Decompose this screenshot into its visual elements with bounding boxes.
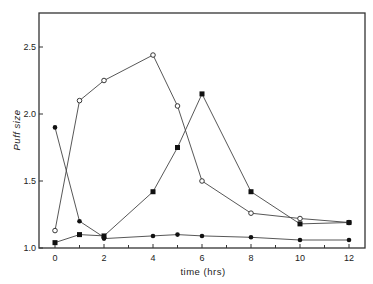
- x-tick-label: 10: [295, 253, 305, 263]
- filled-square-marker: [249, 189, 254, 194]
- series-lines: [55, 55, 349, 243]
- y-tick-label: 1.0: [23, 243, 36, 253]
- filled-circle-marker: [151, 234, 156, 239]
- y-tick-label: 2.5: [23, 42, 36, 52]
- x-tick-label: 0: [52, 253, 57, 263]
- filled-square-marker: [175, 145, 180, 150]
- filled-square-marker: [347, 220, 352, 225]
- open-circle-marker: [249, 211, 254, 216]
- open-circle-marker: [77, 98, 82, 103]
- y-axis-ticks: 1.01.52.02.5: [23, 42, 43, 253]
- series-line-filled-square: [55, 94, 349, 243]
- series-line-open-circle: [55, 55, 349, 231]
- x-axis-title: time (hrs): [180, 266, 225, 277]
- filled-square-marker: [151, 189, 156, 194]
- x-tick-label: 8: [248, 253, 253, 263]
- open-circle-marker: [151, 53, 156, 58]
- filled-circle-marker: [77, 219, 82, 224]
- filled-circle-marker: [175, 232, 180, 237]
- y-tick-label: 1.5: [23, 176, 36, 186]
- filled-circle-marker: [102, 236, 107, 241]
- filled-square-marker: [298, 221, 303, 226]
- open-circle-marker: [298, 216, 303, 221]
- filled-square-marker: [77, 232, 82, 237]
- open-circle-marker: [175, 104, 180, 109]
- open-circle-marker: [200, 179, 205, 184]
- open-circle-marker: [102, 78, 107, 83]
- filled-circle-marker: [200, 234, 205, 239]
- plot-frame: [39, 13, 365, 248]
- series-line-filled-circle-baseline: [104, 235, 349, 240]
- filled-circle-marker: [298, 238, 303, 243]
- y-tick-label: 2.0: [23, 109, 36, 119]
- filled-circle-marker: [249, 235, 254, 240]
- puff-size-chart: 024681012 1.01.52.02.5 time (hrs) Puff s…: [0, 0, 373, 284]
- filled-square-marker: [53, 240, 58, 245]
- filled-circle-marker: [53, 125, 58, 130]
- open-circle-marker: [53, 228, 58, 233]
- filled-circle-marker: [347, 238, 352, 243]
- x-tick-label: 2: [101, 253, 106, 263]
- series-markers: [53, 53, 352, 245]
- filled-square-marker: [200, 91, 205, 96]
- x-tick-label: 12: [344, 253, 354, 263]
- x-axis-ticks: 024681012: [52, 244, 354, 263]
- x-tick-label: 6: [199, 253, 204, 263]
- x-tick-label: 4: [150, 253, 155, 263]
- y-axis-title: Puff size: [11, 110, 22, 151]
